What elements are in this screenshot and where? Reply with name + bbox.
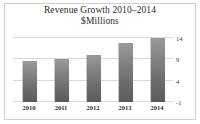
y-axis: 1494-1 [176, 38, 196, 102]
bar-slot [77, 38, 108, 102]
y-tick-label: 9 [176, 56, 196, 63]
bar-2014 [150, 38, 165, 102]
y-tick-label: -1 [176, 99, 196, 106]
x-tick-label-2014: 2014 [141, 104, 172, 111]
x-tick-label-2013: 2013 [109, 104, 140, 111]
y-tick-label: 4 [176, 77, 196, 84]
x-tick-label-2012: 2012 [77, 104, 108, 111]
x-tick-label-2010: 2010 [13, 104, 44, 111]
chart-subtitle: $Millions [0, 16, 200, 27]
bar-slot [109, 38, 140, 102]
bar-2013 [118, 43, 133, 102]
bar-2011 [54, 59, 69, 102]
x-axis: 20102011201220132014 [13, 104, 173, 111]
bar-2012 [86, 55, 101, 102]
bar-slot [13, 38, 44, 102]
chart-screenshot: Revenue Growth 2010–2014 $Millions 1494-… [0, 0, 200, 124]
plot-area [13, 38, 173, 102]
chart-title-block: Revenue Growth 2010–2014 $Millions [0, 5, 200, 26]
y-tick-label: 14 [176, 35, 196, 42]
bar-series [13, 38, 173, 102]
x-tick-label-2011: 2011 [45, 104, 76, 111]
bar-2010 [22, 61, 37, 102]
chart-title: Revenue Growth 2010–2014 [0, 5, 200, 16]
bar-slot [45, 38, 76, 102]
bar-slot [141, 38, 172, 102]
